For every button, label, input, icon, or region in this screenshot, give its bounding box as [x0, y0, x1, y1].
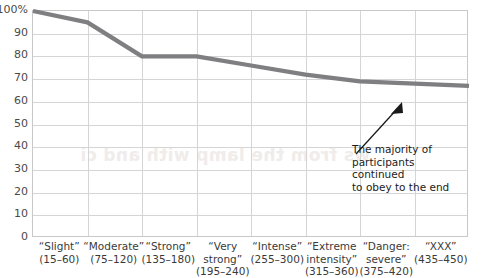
annotation-text: The majority of participants continued t…: [352, 143, 470, 193]
y-axis-tick-label: 100%: [0, 3, 28, 16]
x-axis-tick-label: “XXX”(435–450): [404, 240, 478, 265]
y-axis-tick-label: 10: [0, 207, 28, 220]
y-axis-tick-label: 80: [0, 48, 28, 61]
y-axis-tick-label: 70: [0, 71, 28, 84]
x-axis: “Slight”(15–60)“Moderate”(75–120)“Strong…: [32, 240, 468, 274]
y-axis-tick-label: 20: [0, 185, 28, 198]
y-axis-tick-label: 90: [0, 26, 28, 39]
y-axis: 100%9080706050403020100: [0, 10, 28, 237]
y-axis-tick-label: 50: [0, 117, 28, 130]
y-axis-tick-label: 40: [0, 139, 28, 152]
y-axis-tick-label: 60: [0, 94, 28, 107]
y-axis-tick-label: 30: [0, 162, 28, 175]
